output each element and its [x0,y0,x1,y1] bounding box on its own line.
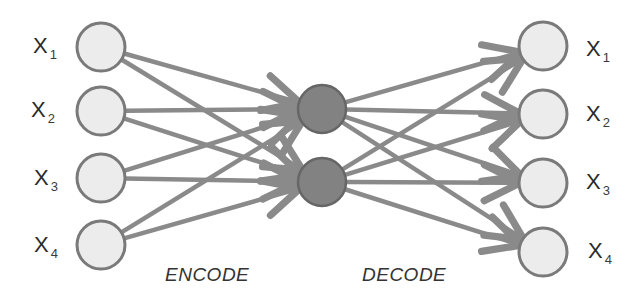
input-node-x3[interactable] [77,154,125,202]
edge-h2-out4 [345,189,519,244]
encode-label: ENCODE [165,264,249,286]
decode-label: DECODE [362,264,446,286]
output-label-x4: X4 [588,240,612,266]
output-label-x3: X3 [586,171,610,197]
input-label-x1-text: X [33,33,48,58]
output-node-x4[interactable] [519,228,567,276]
output-label-x1-subscript: 1 [603,50,610,65]
autoencoder-diagram: X1 X2 X3 X4 X1 X2 X3 X4 ENCODE DECODE [0,0,644,304]
input-label-x2: X2 [31,99,55,125]
output-label-x3-subscript: 3 [603,183,610,198]
input-label-x2-text: X [31,97,46,122]
output-label-x3-text: X [586,169,601,194]
hidden-layer [298,85,346,206]
input-label-x1: X1 [33,35,57,61]
input-node-x4[interactable] [77,221,125,269]
input-label-x4-subscript: 4 [51,246,58,261]
input-label-x4: X4 [34,234,58,260]
input-node-x1[interactable] [77,23,125,71]
output-node-x2[interactable] [519,90,567,138]
output-label-x2-text: X [586,101,601,126]
output-label-x2-subscript: 2 [603,115,610,130]
network-canvas [0,0,644,304]
output-label-x4-subscript: 4 [605,252,612,267]
output-node-x1[interactable] [519,22,567,70]
output-node-x3[interactable] [519,159,567,207]
input-label-x3-text: X [34,165,49,190]
output-label-x1: X1 [586,38,610,64]
input-label-x1-subscript: 1 [50,47,57,62]
edge-in2-h1 [125,109,297,111]
decode-edges [342,53,522,245]
input-layer [77,23,125,269]
output-layer [519,22,567,276]
input-label-x4-text: X [34,232,49,257]
input-node-x2[interactable] [77,87,125,135]
input-label-x3-subscript: 3 [51,179,58,194]
input-label-x3: X3 [34,167,58,193]
edge-h2-out3 [346,182,518,183]
hidden-node-2[interactable] [298,158,346,206]
encode-edges [121,53,300,238]
output-label-x1-text: X [586,36,601,61]
input-label-x2-subscript: 2 [48,111,55,126]
output-label-x4-text: X [588,238,603,263]
hidden-node-1[interactable] [298,85,346,133]
output-label-x2: X2 [586,103,610,129]
